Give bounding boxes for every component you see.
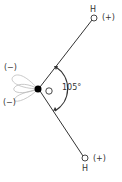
hydrogen-bottom-label: H bbox=[82, 164, 88, 173]
lone-pair-orbitals bbox=[12, 75, 38, 101]
hydrogen-top-label: H bbox=[90, 5, 96, 14]
oxygen-circle bbox=[46, 88, 52, 94]
lone-pair-top-charge: (−) bbox=[4, 63, 17, 72]
water-molecule-diagram: H (+) H (+) 105° (−) (−) bbox=[0, 0, 122, 182]
hydrogen-top-circle bbox=[91, 15, 97, 21]
oxygen-nucleus-dot bbox=[35, 86, 42, 93]
hydrogen-bottom-charge: (+) bbox=[93, 154, 106, 163]
lone-pair-bottom-charge: (−) bbox=[3, 98, 16, 107]
hydrogen-bottom-circle bbox=[82, 155, 88, 161]
bond-top bbox=[40, 20, 92, 87]
bond-bottom bbox=[40, 91, 83, 156]
bond-angle-label: 105° bbox=[62, 83, 81, 92]
hydrogen-top-charge: (+) bbox=[102, 13, 115, 22]
